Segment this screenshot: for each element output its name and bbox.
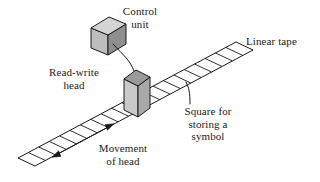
label-control-unit: Control unit xyxy=(104,5,176,30)
label-read-write-head: Read-write head xyxy=(38,66,110,91)
read-write-head xyxy=(124,70,150,117)
movement-arrow-head-right xyxy=(105,124,114,130)
label-linear-tape: Linear tape xyxy=(246,35,320,48)
turing-machine-figure: Control unit Linear tape Read-write head… xyxy=(0,0,320,182)
control-cable xyxy=(113,44,134,71)
label-movement-of-head: Movement of head xyxy=(84,142,162,167)
label-square-for-storing-symbol: Square for storing a symbol xyxy=(166,105,250,143)
